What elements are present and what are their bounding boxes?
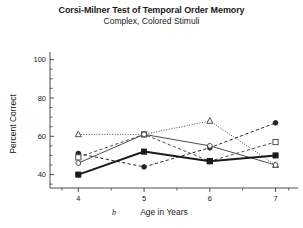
- series-line: [78, 123, 275, 167]
- data-point-marker: [76, 161, 81, 166]
- data-point-marker: [142, 165, 147, 170]
- data-point-marker: [76, 155, 81, 160]
- y-tick-label: 60: [38, 132, 46, 141]
- data-point-marker: [207, 118, 213, 124]
- x-tick-label: 4: [76, 194, 80, 203]
- series-line: [78, 134, 275, 165]
- x-tick-label: 7: [273, 194, 277, 203]
- data-point-marker: [141, 149, 146, 154]
- panel-letter: b: [112, 208, 116, 217]
- y-tick-label: 80: [38, 94, 46, 103]
- series-line: [78, 152, 275, 175]
- x-tick-label: 6: [208, 194, 212, 203]
- series-filled-square: [76, 149, 278, 177]
- data-point-marker: [273, 120, 278, 125]
- data-point-marker: [75, 131, 81, 137]
- data-point-marker: [207, 159, 212, 164]
- data-point-marker: [273, 139, 278, 144]
- x-tick-label: 5: [142, 194, 146, 203]
- data-series-group: [75, 118, 278, 177]
- x-axis-title: Age in Years: [140, 207, 188, 217]
- y-tick-label: 40: [38, 170, 46, 179]
- data-point-marker: [273, 163, 278, 168]
- y-tick-label: 100: [33, 55, 46, 64]
- y-axis-title: Percent Correct: [8, 94, 18, 154]
- chart-figure: Corsi-Milner Test of Temporal Order Memo…: [0, 0, 303, 228]
- data-point-marker: [142, 132, 147, 137]
- data-point-marker: [76, 172, 81, 177]
- data-point-marker: [207, 143, 212, 148]
- plot-area: 4060801004567Percent CorrectAge in Years…: [0, 0, 303, 228]
- series-open-triangle: [75, 118, 278, 168]
- data-point-marker: [273, 153, 278, 158]
